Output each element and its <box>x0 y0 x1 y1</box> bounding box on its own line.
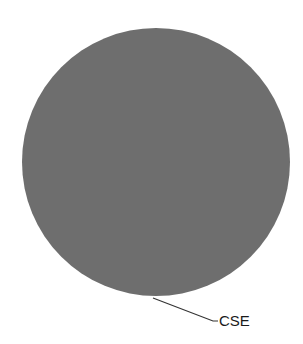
pie-chart: CSE <box>0 0 303 344</box>
slice-label-cse: CSE <box>219 312 250 329</box>
pie-slice-cse <box>22 28 290 296</box>
leader-line <box>153 298 218 321</box>
